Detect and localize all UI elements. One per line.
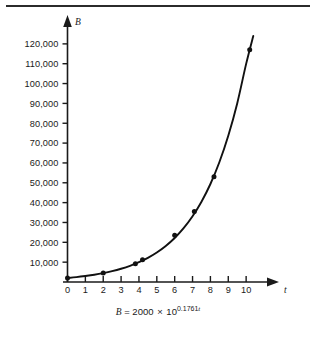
y-tick-label: 20,000 [30, 238, 59, 248]
x-tick-label: 0 [65, 285, 70, 295]
y-tick-label: 120,000 [25, 39, 59, 49]
x-tick-label: 2 [101, 285, 106, 295]
x-tick-label: 5 [154, 285, 159, 295]
y-tick-label: 50,000 [30, 178, 59, 188]
caption-exponent: 0.1761t [177, 305, 200, 312]
y-tick-label: 80,000 [30, 119, 59, 129]
caption-lhs: B [116, 307, 122, 317]
caption-equals: = [124, 306, 130, 317]
x-axis-ticks: 012345678910 [65, 276, 251, 295]
data-point-marker [140, 257, 145, 262]
caption-times-symbol: × [156, 306, 164, 317]
x-tick-label: 9 [226, 285, 231, 295]
y-axis-label: B [75, 17, 81, 27]
y-tick-label: 10,000 [30, 258, 59, 268]
x-tick-label: 10 [241, 285, 251, 295]
data-point-marker [65, 276, 70, 281]
caption-exponent-value: 0.1761 [177, 305, 198, 312]
x-axis-arrowhead [267, 278, 279, 287]
chart-caption: B = 2000 × 100.1761t [0, 306, 316, 317]
data-point-marker [192, 209, 197, 214]
y-tick-label: 90,000 [30, 99, 59, 109]
data-curve [68, 36, 254, 278]
data-point-markers [65, 47, 252, 280]
data-point-marker [172, 233, 177, 238]
y-axis-arrowhead [63, 15, 72, 27]
caption-coefficient: 2000 [132, 306, 153, 317]
data-point-marker [133, 261, 138, 266]
y-tick-label: 60,000 [30, 158, 59, 168]
y-tick-label: 40,000 [30, 198, 59, 208]
exponential-growth-chart: B t 10,00020,00030,00040,00050,00060,000… [0, 0, 316, 306]
y-tick-label: 70,000 [30, 138, 59, 148]
y-tick-label: 110,000 [25, 59, 58, 69]
x-tick-label: 3 [119, 285, 124, 295]
x-tick-label: 6 [172, 285, 177, 295]
y-tick-label: 100,000 [25, 79, 59, 89]
x-tick-label: 8 [208, 285, 213, 295]
caption-exponent-variable: t [198, 305, 200, 313]
caption-base: 10 [166, 306, 177, 317]
data-point-marker [211, 174, 216, 179]
data-point-marker [101, 271, 106, 276]
x-tick-label: 4 [136, 285, 141, 295]
x-tick-label: 7 [190, 285, 195, 295]
x-tick-label: 1 [83, 285, 88, 295]
y-axis-ticks: 10,00020,00030,00040,00050,00060,00070,0… [25, 39, 68, 267]
y-tick-label: 30,000 [30, 218, 59, 228]
data-point-marker [247, 47, 252, 52]
x-axis-label: t [284, 285, 287, 295]
figure-container: B t 10,00020,00030,00040,00050,00060,000… [0, 0, 316, 340]
